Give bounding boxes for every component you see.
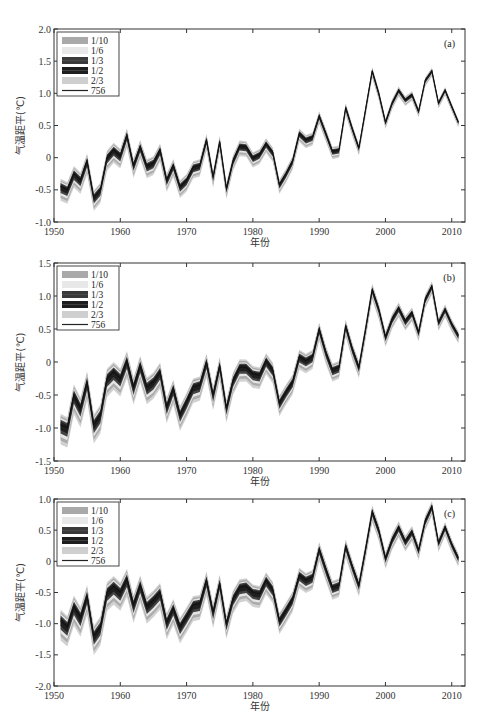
legend-label: 1/2 xyxy=(91,66,103,76)
y-axis-title: 气温距平(℃) xyxy=(14,96,26,155)
x-tick-label: 1980 xyxy=(243,226,263,237)
x-axis-title: 年份 xyxy=(250,475,270,487)
series-756-line xyxy=(61,71,459,198)
y-tick-label: 1.0 xyxy=(39,494,52,505)
legend-swatch xyxy=(62,311,88,318)
x-tick-label: 2000 xyxy=(375,226,395,237)
y-tick-label: 2.0 xyxy=(39,24,52,35)
y-tick-label: 0.5 xyxy=(39,324,52,335)
x-tick-label: 2010 xyxy=(442,226,462,237)
y-tick-label: 1.0 xyxy=(39,88,52,99)
legend-label: 1/6 xyxy=(91,280,103,290)
legend-label: 1/3 xyxy=(91,56,103,66)
x-tick-label: 1980 xyxy=(243,690,263,701)
x-tick-label: 1990 xyxy=(309,465,329,476)
y-tick-label: -0.5 xyxy=(35,587,51,598)
x-axis-title: 年份 xyxy=(250,700,270,712)
legend-swatch xyxy=(62,507,88,514)
x-tick-label: 1990 xyxy=(309,690,329,701)
y-tick-label: 0 xyxy=(46,556,51,567)
x-tick-label: 1970 xyxy=(177,690,197,701)
legend-label: 2/3 xyxy=(91,310,103,320)
legend-label: 1/2 xyxy=(91,536,103,546)
series-756-line xyxy=(61,286,459,428)
y-tick-label: -1.0 xyxy=(35,618,51,629)
x-axis-title: 年份 xyxy=(250,236,270,248)
chart-panel-a: 1950196019701980199020002010-1.0-0.500.5… xyxy=(14,24,465,249)
y-tick-label: -1.5 xyxy=(35,649,51,660)
legend-label: 1/10 xyxy=(91,270,108,280)
chart-panel-c: 1950196019701980199020002010-2.0-1.5-1.0… xyxy=(14,494,465,713)
y-tick-label: 1.5 xyxy=(39,56,52,67)
legend-label: 1/2 xyxy=(91,300,103,310)
legend-label: 1/10 xyxy=(91,36,108,46)
x-tick-label: 1960 xyxy=(110,690,130,701)
x-tick-label: 1950 xyxy=(44,690,64,701)
panel-label: (b) xyxy=(443,272,455,284)
x-tick-label: 1990 xyxy=(309,226,329,237)
y-tick-label: 0.5 xyxy=(39,120,52,131)
y-tick-label: -1.0 xyxy=(35,423,51,434)
legend-label: 756 xyxy=(91,556,106,566)
legend-swatch xyxy=(62,47,88,54)
legend-swatch xyxy=(62,77,88,84)
legend-label: 1/3 xyxy=(91,526,103,536)
legend-label: 756 xyxy=(91,86,106,96)
y-tick-label: -0.5 xyxy=(35,390,51,401)
x-tick-label: 1950 xyxy=(44,226,64,237)
legend-label: 1/3 xyxy=(91,290,103,300)
legend-label: 1/10 xyxy=(91,506,108,516)
band-1-3 xyxy=(61,504,459,645)
legend-label: 1/6 xyxy=(91,516,103,526)
x-tick-label: 2000 xyxy=(375,465,395,476)
x-tick-label: 2010 xyxy=(442,465,462,476)
series-756-line xyxy=(61,507,459,637)
legend-label: 756 xyxy=(91,320,106,330)
x-tick-label: 1970 xyxy=(177,226,197,237)
legend-swatch xyxy=(62,281,88,288)
legend: 1/101/61/31/22/3756 xyxy=(57,266,119,330)
legend-swatch xyxy=(62,37,88,44)
band-1-2 xyxy=(61,505,459,642)
panel-label: (c) xyxy=(444,508,455,520)
chart-panel-b: 1950196019701980199020002010-1.5-1.0-0.5… xyxy=(14,258,465,488)
panel-label: (a) xyxy=(444,38,455,50)
y-tick-label: 0 xyxy=(46,357,51,368)
y-tick-label: -0.5 xyxy=(35,184,51,195)
legend-swatch xyxy=(62,517,88,524)
legend-swatch xyxy=(62,547,88,554)
y-axis-title: 气温距平(℃) xyxy=(14,332,26,391)
x-tick-label: 2000 xyxy=(375,690,395,701)
legend-label: 1/6 xyxy=(91,46,103,56)
x-tick-label: 1960 xyxy=(110,226,130,237)
y-tick-label: 1.0 xyxy=(39,291,52,302)
y-tick-label: -2.0 xyxy=(35,681,51,692)
figure-canvas: 1950196019701980199020002010-1.0-0.500.5… xyxy=(0,0,485,728)
x-tick-label: 1960 xyxy=(110,465,130,476)
y-tick-label: 0.5 xyxy=(39,525,52,536)
x-tick-label: 1970 xyxy=(177,465,197,476)
y-tick-label: 0 xyxy=(46,152,51,163)
legend-label: 2/3 xyxy=(91,546,103,556)
x-tick-label: 2010 xyxy=(442,690,462,701)
y-tick-label: -1.0 xyxy=(35,217,51,228)
legend: 1/101/61/31/22/3756 xyxy=(57,32,119,96)
x-tick-label: 1950 xyxy=(44,465,64,476)
legend-swatch xyxy=(62,271,88,278)
y-tick-label: -1.5 xyxy=(35,456,51,467)
legend: 1/101/61/31/22/3756 xyxy=(57,502,119,566)
y-tick-label: 1.5 xyxy=(39,258,52,269)
y-axis-title: 气温距平(℃) xyxy=(14,563,26,622)
x-tick-label: 1980 xyxy=(243,465,263,476)
legend-label: 2/3 xyxy=(91,76,103,86)
